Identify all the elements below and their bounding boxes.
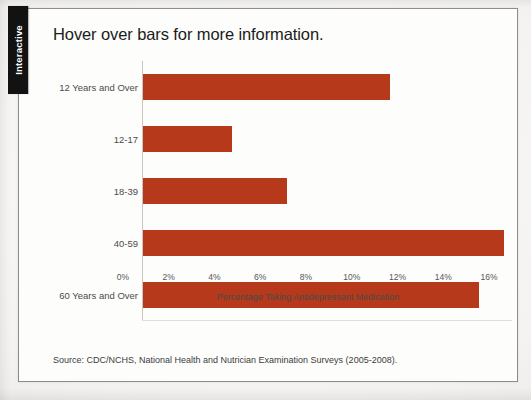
x-axis-tick-label: 8% (300, 272, 312, 282)
interactive-tab-label: Interactive (13, 25, 24, 75)
x-axis-tick-label: 10% (343, 272, 360, 282)
bar[interactable] (143, 126, 232, 152)
chart-plot-area: 12 Years and Over12-1718-3940-5960 Years… (38, 61, 518, 331)
x-axis-tick-label: 0% (117, 272, 129, 282)
x-axis-tick-label: 2% (163, 272, 175, 282)
figure-container: Hover over bars for more information. 12… (18, 8, 518, 382)
x-axis-tick-label: 12% (389, 272, 406, 282)
x-axis-tick-label: 14% (435, 272, 452, 282)
page-title: Hover over bars for more information. (53, 25, 323, 44)
x-axis-tick-labels: 0%2%4%6%8%10%12%14%16% (123, 272, 503, 288)
bar[interactable] (143, 230, 504, 256)
x-axis-tick-label: 6% (254, 272, 266, 282)
y-axis-category-label: 18-39 (38, 186, 138, 197)
interactive-tab[interactable]: Interactive (8, 6, 28, 94)
y-axis-category-label: 12 Years and Over (38, 82, 138, 93)
source-note: Source: CDC/NCHS, National Health and Nu… (53, 355, 397, 365)
x-axis-tick-label: 4% (208, 272, 220, 282)
y-axis-category-label: 40-59 (38, 238, 138, 249)
x-axis-line (142, 320, 512, 321)
bar[interactable] (143, 74, 390, 100)
x-axis-tick-label: 16% (480, 272, 497, 282)
y-axis-category-label: 12-17 (38, 134, 138, 145)
x-axis-title: Percentage Taking Antidepressant Medicat… (123, 292, 493, 302)
bar[interactable] (143, 178, 287, 204)
